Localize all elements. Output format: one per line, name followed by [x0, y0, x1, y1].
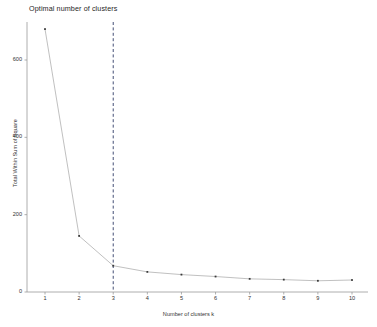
data-point-k7: [249, 278, 251, 280]
x-tick-label-3: 3: [105, 296, 121, 302]
series-layer: [44, 28, 353, 282]
y-tick-label-0: 0: [0, 289, 22, 295]
x-tick-label-8: 8: [276, 296, 292, 302]
data-point-k1: [44, 28, 46, 30]
data-point-k8: [283, 279, 285, 281]
y-axis-title: Total Within Sum of Square: [12, 93, 18, 213]
axes-layer: [25, 22, 369, 295]
x-tick-label-10: 10: [344, 296, 360, 302]
y-tick-label-200: 200: [0, 212, 22, 218]
data-point-k9: [317, 280, 319, 282]
x-tick-label-1: 1: [37, 296, 53, 302]
data-point-k2: [78, 235, 80, 237]
x-tick-label-7: 7: [242, 296, 258, 302]
data-point-k5: [181, 274, 183, 276]
y-tick-label-600: 600: [0, 57, 22, 63]
x-axis-title: Number of clusters k: [0, 311, 377, 317]
data-point-k4: [146, 271, 148, 273]
data-point-k6: [215, 276, 217, 278]
y-tick-label-400: 400: [0, 134, 22, 140]
x-tick-label-5: 5: [173, 296, 189, 302]
x-tick-label-2: 2: [71, 296, 87, 302]
elbow-plot: Optimal number of clusters 0200400600 12…: [0, 0, 377, 327]
data-point-k3: [112, 265, 114, 267]
chart-canvas: [0, 0, 377, 327]
x-tick-label-4: 4: [139, 296, 155, 302]
x-tick-label-9: 9: [310, 296, 326, 302]
data-point-k10: [351, 279, 353, 281]
x-tick-label-6: 6: [208, 296, 224, 302]
